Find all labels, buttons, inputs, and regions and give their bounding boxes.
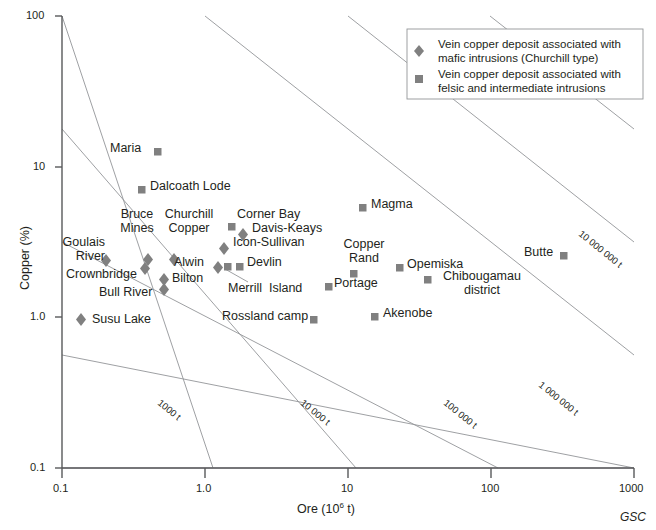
point-label-dalcoath-lode: Dalcoath Lode: [150, 180, 231, 194]
point-label-chibougamau: Chibougamau district: [436, 270, 528, 297]
x-tick-1000: 1000: [619, 482, 643, 494]
point-label-susu-lake: Susu Lake: [92, 313, 151, 327]
point-label-devlin: Devlin: [247, 256, 282, 270]
contour-label-1000000t: 1 000 000 t: [537, 379, 581, 418]
y-tick-10: 10: [33, 160, 45, 172]
chart-canvas: 1000 t 10 000 t 100 000 t 1 000 000 t 10…: [0, 0, 656, 530]
y-tick-1: 1.0: [30, 310, 45, 322]
marker-dalcoath-lode: [138, 186, 146, 194]
marker-rossland-camp: [310, 316, 318, 324]
point-label-corner-bay: Corner Bay: [237, 208, 300, 222]
x-tick-0.1: 0.1: [53, 482, 68, 494]
marker-maria: [154, 148, 162, 156]
x-tick-100: 100: [481, 482, 499, 494]
point-label-davis-keays: Davis-Keays: [252, 222, 322, 236]
marker-portage: [325, 283, 333, 291]
point-label-merrill-island: Merrill Island: [228, 282, 302, 296]
point-label-copper-rand: Copper Rand: [338, 238, 390, 265]
point-label-portage: Portage: [334, 277, 378, 291]
point-label-butte: Butte: [524, 246, 553, 260]
marker-susu-lake: [76, 313, 86, 326]
marker-devlin: [236, 263, 244, 271]
point-label-bull-river: Bull River: [99, 286, 153, 300]
contour-label-10000000t: 10 000 000 t: [577, 228, 625, 270]
x-axis-label: Ore (106 t): [297, 501, 355, 516]
point-label-goulais-river: Goulais River: [61, 236, 105, 263]
point-label-magma: Magma: [371, 198, 413, 212]
point-label-maria: Maria: [110, 142, 141, 156]
y-axis-label: Copper (%): [18, 226, 32, 290]
contour-labels: 1000 t 10 000 t 100 000 t 1 000 000 t 10…: [156, 228, 625, 431]
x-tick-10: 10: [341, 482, 353, 494]
marker-butte: [560, 252, 568, 260]
legend-entry-square-label: Vein copper deposit associated with fels…: [438, 67, 621, 95]
x-axis-label-main: Ore (10: [297, 502, 339, 516]
point-label-churchill-copper: Churchill Copper: [160, 208, 218, 235]
legend-entry-diamond-label: Vein copper deposit associated with mafi…: [438, 37, 621, 65]
x-tick-1.0: 1.0: [196, 482, 211, 494]
point-label-alwin: Alwin: [174, 256, 204, 270]
marker-magma: [359, 204, 367, 212]
marker-bilton: [159, 273, 169, 286]
point-label-rossland-camp: Rossland camp: [222, 310, 308, 324]
contour-label-100000t: 100 000 t: [442, 397, 480, 431]
y-tick-0.1: 0.1: [30, 461, 45, 473]
point-label-icon-sullivan: Icon-Sullivan: [233, 236, 305, 250]
x-axis-label-tail: t): [344, 502, 355, 516]
marker-akenobe: [371, 313, 379, 321]
y-tick-100: 100: [26, 9, 44, 21]
marker-alwin: [213, 261, 223, 274]
contour-label-10000t: 10 000 t: [299, 397, 333, 427]
point-label-bruce-mines: Bruce Mines: [111, 208, 163, 235]
marker-icon-sullivan: [219, 242, 229, 255]
point-label-akenobe: Akenobe: [383, 307, 432, 321]
marker-merrill-island: [224, 263, 232, 271]
gsc-credit: GSC: [620, 510, 646, 524]
point-label-crownbridge: Crownbridge: [66, 268, 137, 282]
marker-opemiska: [396, 264, 404, 272]
marker-chibougamau: [424, 276, 432, 284]
point-label-bilton: Bilton: [172, 272, 203, 286]
marker-corner-bay: [228, 223, 236, 231]
contour-label-1000t: 1000 t: [156, 397, 184, 422]
legend-square-icon: [415, 75, 423, 83]
